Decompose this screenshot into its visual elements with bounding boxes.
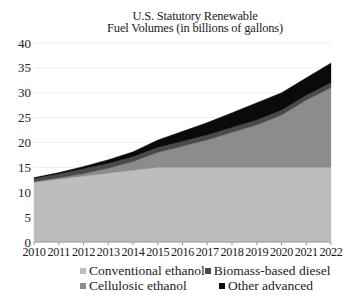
legend-swatch [80,283,86,289]
legend-item-cellulosic-ethanol: Cellulosic ethanol [80,278,219,293]
x-tick-label: 2019 [245,245,268,259]
y-tick-label: 35 [18,60,31,75]
stacked-areas [34,63,331,242]
x-tick-label: 2012 [72,245,95,259]
legend-label: Cellulosic ethanol [89,278,187,293]
x-tick-label: 2015 [146,245,169,259]
chart-plot-area: 0510152025303540201020112012201320142015… [0,0,360,297]
x-tick-label: 2016 [171,245,194,259]
x-tick-label: 2018 [220,245,243,259]
x-tick-label: 2020 [270,245,293,259]
x-tick-label: 2022 [319,245,342,259]
x-tick-label: 2010 [22,245,45,259]
area-conventional-ethanol [34,167,331,242]
legend-row: Cellulosic ethanol Other advanced [80,278,320,293]
y-tick-label: 25 [18,110,31,125]
legend-item-biomass-based-diesel: Biomass-based diesel [205,263,331,278]
y-tick-label: 5 [25,210,32,225]
legend-swatch [80,268,86,274]
legend-row: Conventional ethanol Biomass-based diese… [80,263,320,278]
y-tick-label: 15 [18,160,31,175]
x-tick-label: 2013 [97,245,120,259]
legend-swatch [219,283,225,289]
legend-item-other-advanced: Other advanced [219,278,313,293]
x-tick-label: 2011 [47,245,70,259]
x-tick-label: 2017 [196,245,219,259]
y-tick-label: 10 [18,185,31,200]
x-tick-label: 2021 [295,245,318,259]
legend-swatch [205,268,211,274]
legend-label: Biomass-based diesel [214,263,331,278]
y-tick-label: 40 [18,36,31,51]
legend-label: Conventional ethanol [89,263,205,278]
legend-item-conventional-ethanol: Conventional ethanol [80,263,205,278]
legend-label: Other advanced [228,278,313,293]
x-tick-label: 2014 [121,245,144,259]
legend: Conventional ethanol Biomass-based diese… [80,263,320,293]
y-tick-label: 20 [18,135,31,150]
y-tick-label: 30 [18,85,31,100]
